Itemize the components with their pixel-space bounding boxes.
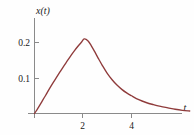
y-axis-label: x(t) <box>35 5 51 17</box>
response-curve <box>35 39 190 114</box>
y-tick-label-0.1: 0.1 <box>18 74 30 84</box>
plot-svg: 0.2 0.1 2 4 x(t) t <box>0 0 194 135</box>
figure-container: 0.2 0.1 2 4 x(t) t <box>0 0 194 135</box>
x-tick-label-4: 4 <box>129 121 134 131</box>
y-tick-label-0.2: 0.2 <box>18 38 30 48</box>
x-tick-label-2: 2 <box>80 121 85 131</box>
